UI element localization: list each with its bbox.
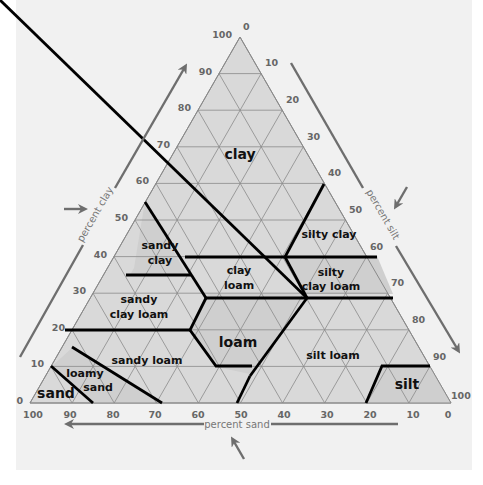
label-loamy-sand-1: loamy: [66, 367, 103, 380]
svg-text:30: 30: [73, 285, 87, 296]
svg-text:100: 100: [212, 29, 232, 40]
svg-text:70: 70: [148, 409, 162, 420]
svg-text:60: 60: [191, 409, 205, 420]
label-silty-clay-loam-2: clay loam: [302, 280, 361, 293]
svg-text:0: 0: [16, 395, 23, 406]
svg-text:0: 0: [243, 21, 250, 32]
label-clay: clay: [224, 146, 255, 162]
sand-axis-label: percent sand: [204, 419, 270, 430]
label-silt-loam: silt loam: [306, 349, 359, 362]
svg-text:80: 80: [178, 102, 192, 113]
label-sandy-clay-2: clay: [148, 254, 173, 267]
svg-text:10: 10: [265, 57, 279, 68]
label-silty-clay: silty clay: [302, 228, 357, 241]
svg-text:20: 20: [363, 409, 377, 420]
svg-text:40: 40: [94, 249, 108, 260]
label-silty-clay-loam-1: silty: [318, 266, 345, 279]
label-clay-loam-2: loam: [224, 279, 254, 292]
sand-reading-arrow: [233, 440, 244, 459]
svg-text:60: 60: [370, 241, 384, 252]
label-sand: sand: [37, 385, 75, 401]
svg-text:40: 40: [328, 167, 342, 178]
label-sandy-clay-loam-2: clay loam: [110, 308, 169, 321]
svg-text:80: 80: [412, 314, 426, 325]
svg-text:0: 0: [445, 409, 452, 420]
svg-text:30: 30: [320, 409, 334, 420]
svg-text:80: 80: [106, 409, 120, 420]
soil-texture-triangle: 100 90 80 70 60 50 40 30 20 10 0 0 10 20…: [0, 0, 483, 485]
svg-text:70: 70: [391, 277, 405, 288]
label-sandy-clay-loam-1: sandy: [121, 293, 158, 306]
svg-text:90: 90: [63, 409, 77, 420]
svg-text:20: 20: [286, 94, 300, 105]
svg-text:70: 70: [157, 139, 171, 150]
silt-axis-label: percent silt: [364, 187, 402, 241]
label-sandy-loam: sandy loam: [112, 354, 183, 367]
svg-text:90: 90: [433, 351, 447, 362]
label-silt: silt: [395, 376, 420, 392]
svg-text:50: 50: [349, 204, 363, 215]
label-loamy-sand-2: sand: [83, 381, 113, 394]
svg-text:40: 40: [277, 409, 291, 420]
svg-text:100: 100: [23, 409, 43, 420]
label-sandy-clay-1: sandy: [142, 239, 179, 252]
svg-text:10: 10: [31, 358, 45, 369]
svg-text:10: 10: [406, 409, 420, 420]
svg-text:90: 90: [199, 66, 213, 77]
svg-text:50: 50: [115, 212, 129, 223]
label-loam: loam: [219, 334, 257, 350]
label-clay-loam-1: clay: [227, 264, 252, 277]
svg-text:20: 20: [52, 322, 66, 333]
silt-reading-arrow: [396, 187, 407, 206]
svg-text:100: 100: [451, 390, 471, 401]
svg-text:60: 60: [136, 175, 150, 186]
clay-axis-label: percent clay: [75, 185, 115, 244]
svg-text:30: 30: [307, 131, 321, 142]
